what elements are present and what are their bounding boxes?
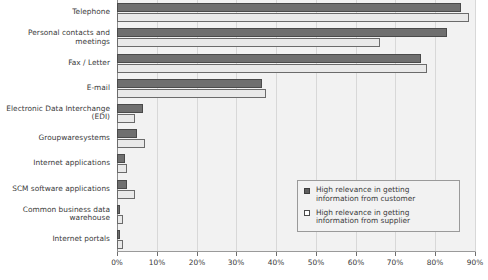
- category-label: Internet portals: [0, 227, 113, 252]
- x-tick-label: 40%: [268, 258, 284, 267]
- category-label-line: Personal contacts and meetings: [0, 29, 110, 46]
- bar-supplier: [117, 13, 469, 22]
- category-label-line: warehouse: [70, 214, 110, 223]
- x-tick-label: 30%: [228, 258, 244, 267]
- bar-customer: [117, 3, 461, 12]
- bar-customer: [117, 54, 421, 63]
- bar-customer: [117, 129, 137, 138]
- bar-customer: [117, 230, 120, 239]
- legend-label-customer-line2: information from customer: [316, 194, 415, 203]
- category-label: Electronic Data Interchange(EDI): [0, 101, 113, 126]
- category-label: Telephone: [0, 0, 113, 25]
- bar-supplier: [117, 64, 427, 73]
- bar-supplier: [117, 89, 266, 98]
- category-label: Groupwaresystems: [0, 126, 113, 151]
- bar-supplier: [117, 114, 135, 123]
- x-tick-label: 20%: [189, 258, 205, 267]
- bar-customer: [117, 104, 143, 113]
- x-tick-mark: [157, 252, 158, 256]
- category-label: Fax / Letter: [0, 50, 113, 75]
- category-label-line: E-mail: [87, 84, 110, 93]
- category-label: SCM software applications: [0, 176, 113, 201]
- bar-supplier: [117, 240, 123, 249]
- x-tick-label: 60%: [348, 258, 364, 267]
- legend-label-customer: High relevance in gettinginformation fro…: [316, 186, 415, 204]
- legend-item-customer: High relevance in gettinginformation fro…: [304, 186, 454, 204]
- x-tick-mark: [117, 252, 118, 256]
- legend-item-supplier: High relevance in gettinginformation fro…: [304, 209, 454, 227]
- legend-label-supplier-line2: information from supplier: [316, 216, 410, 225]
- category-label-line: Fax / Letter: [68, 59, 110, 68]
- x-tick-mark: [475, 252, 476, 256]
- legend-swatch-customer-icon: [304, 188, 310, 194]
- x-tick-mark: [435, 252, 436, 256]
- x-tick-mark: [316, 252, 317, 256]
- category-label-line: Internet applications: [33, 159, 110, 168]
- bar-customer: [117, 79, 262, 88]
- legend-label-supplier-line1: High relevance in getting: [316, 208, 409, 217]
- bar-supplier: [117, 139, 145, 148]
- bar-customer: [117, 154, 125, 163]
- bar-chart: TelephonePersonal contacts and meetingsF…: [0, 0, 488, 280]
- category-label: Common business datawarehouse: [0, 202, 113, 227]
- x-tick-label: 50%: [308, 258, 324, 267]
- x-tick-mark: [356, 252, 357, 256]
- bar-supplier: [117, 164, 127, 173]
- x-tick-label: 70%: [387, 258, 403, 267]
- category-label: Internet applications: [0, 151, 113, 176]
- x-tick-label: 10%: [149, 258, 165, 267]
- legend-label-supplier: High relevance in gettinginformation fro…: [316, 209, 410, 227]
- category-label-line: Groupwaresystems: [39, 134, 110, 143]
- category-label-line: Telephone: [72, 8, 110, 17]
- category-label: Personal contacts and meetings: [0, 25, 113, 50]
- x-tick-mark: [276, 252, 277, 256]
- x-tick-mark: [197, 252, 198, 256]
- category-label: E-mail: [0, 76, 113, 101]
- bar-customer: [117, 205, 120, 214]
- x-tick-label: 90%: [467, 258, 483, 267]
- chart-legend: High relevance in gettinginformation fro…: [297, 180, 460, 232]
- bar-supplier: [117, 215, 123, 224]
- category-label-line: (EDI): [92, 113, 110, 122]
- bar-supplier: [117, 190, 135, 199]
- x-tick-label: 0%: [111, 258, 123, 267]
- x-tick-mark: [395, 252, 396, 256]
- legend-swatch-supplier-icon: [304, 210, 310, 216]
- x-tick-label: 80%: [427, 258, 443, 267]
- bar-supplier: [117, 38, 380, 47]
- x-axis: 0%10%20%30%40%50%60%70%80%90%: [117, 252, 477, 280]
- gridline-90%: [475, 0, 476, 251]
- category-axis-labels: TelephonePersonal contacts and meetingsF…: [0, 0, 113, 252]
- x-tick-mark: [236, 252, 237, 256]
- category-label-line: SCM software applications: [12, 185, 110, 194]
- bar-customer: [117, 28, 447, 37]
- category-label-line: Internet portals: [52, 235, 110, 244]
- legend-label-customer-line1: High relevance in getting: [316, 185, 409, 194]
- bar-customer: [117, 180, 127, 189]
